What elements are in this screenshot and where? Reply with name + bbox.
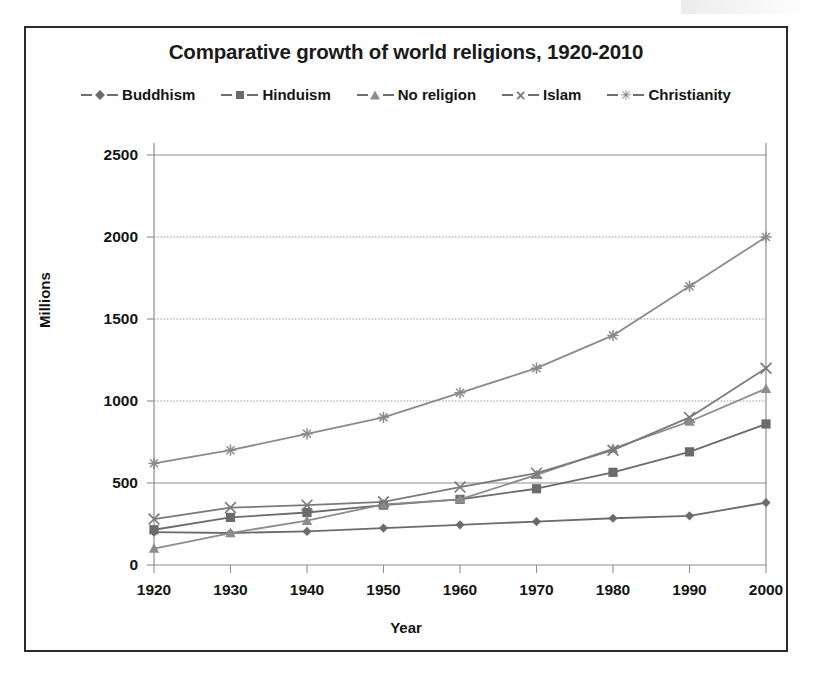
x-tick-label-1960: 1960	[443, 581, 477, 599]
data-point-marker	[454, 387, 465, 398]
x-tick-label-1990: 1990	[672, 581, 706, 599]
x-tick-label-1930: 1930	[213, 581, 247, 599]
data-point-marker	[531, 363, 542, 374]
data-point-marker	[149, 525, 158, 534]
data-point-marker	[455, 520, 464, 529]
data-point-marker	[608, 468, 617, 477]
x-tick-label-2000: 2000	[749, 581, 783, 599]
x-tick-label-1970: 1970	[519, 581, 553, 599]
x-tick-label-1940: 1940	[290, 581, 324, 599]
data-point-marker	[684, 281, 695, 292]
x-axis-title: Year	[26, 619, 786, 636]
y-axis-title: Millions	[36, 272, 53, 328]
data-point-marker	[378, 412, 389, 423]
x-tick-label-1950: 1950	[366, 581, 400, 599]
data-point-marker	[761, 383, 771, 393]
series-christianity	[148, 231, 771, 469]
data-point-marker	[532, 484, 541, 493]
y-tick-label-0: 0	[129, 556, 138, 574]
data-point-marker	[226, 513, 235, 522]
data-point-marker	[685, 511, 694, 520]
plot-area	[26, 28, 786, 650]
data-point-marker	[225, 445, 236, 456]
scan-artifact	[681, 0, 801, 14]
y-tick-label-1000: 1000	[104, 392, 138, 410]
data-point-marker	[685, 447, 694, 456]
data-point-marker	[761, 419, 770, 428]
data-point-marker	[761, 498, 770, 507]
data-point-marker	[760, 231, 771, 242]
data-point-marker	[607, 330, 618, 341]
data-point-marker	[148, 458, 159, 469]
data-point-marker	[379, 524, 388, 533]
x-tick-label-1920: 1920	[137, 581, 171, 599]
y-tick-label-1500: 1500	[104, 310, 138, 328]
y-tick-label-500: 500	[112, 474, 138, 492]
y-tick-label-2500: 2500	[104, 146, 138, 164]
series-line	[154, 237, 766, 463]
x-tick-label-1980: 1980	[596, 581, 630, 599]
data-point-marker	[532, 517, 541, 526]
series-hinduism	[149, 419, 770, 534]
y-tick-label-2000: 2000	[104, 228, 138, 246]
series-line	[154, 424, 766, 530]
chart-plot-svg	[26, 28, 790, 654]
chart-frame: Comparative growth of world religions, 1…	[24, 26, 788, 652]
data-point-marker	[608, 514, 617, 523]
data-point-marker	[302, 527, 311, 536]
data-point-marker	[301, 428, 312, 439]
